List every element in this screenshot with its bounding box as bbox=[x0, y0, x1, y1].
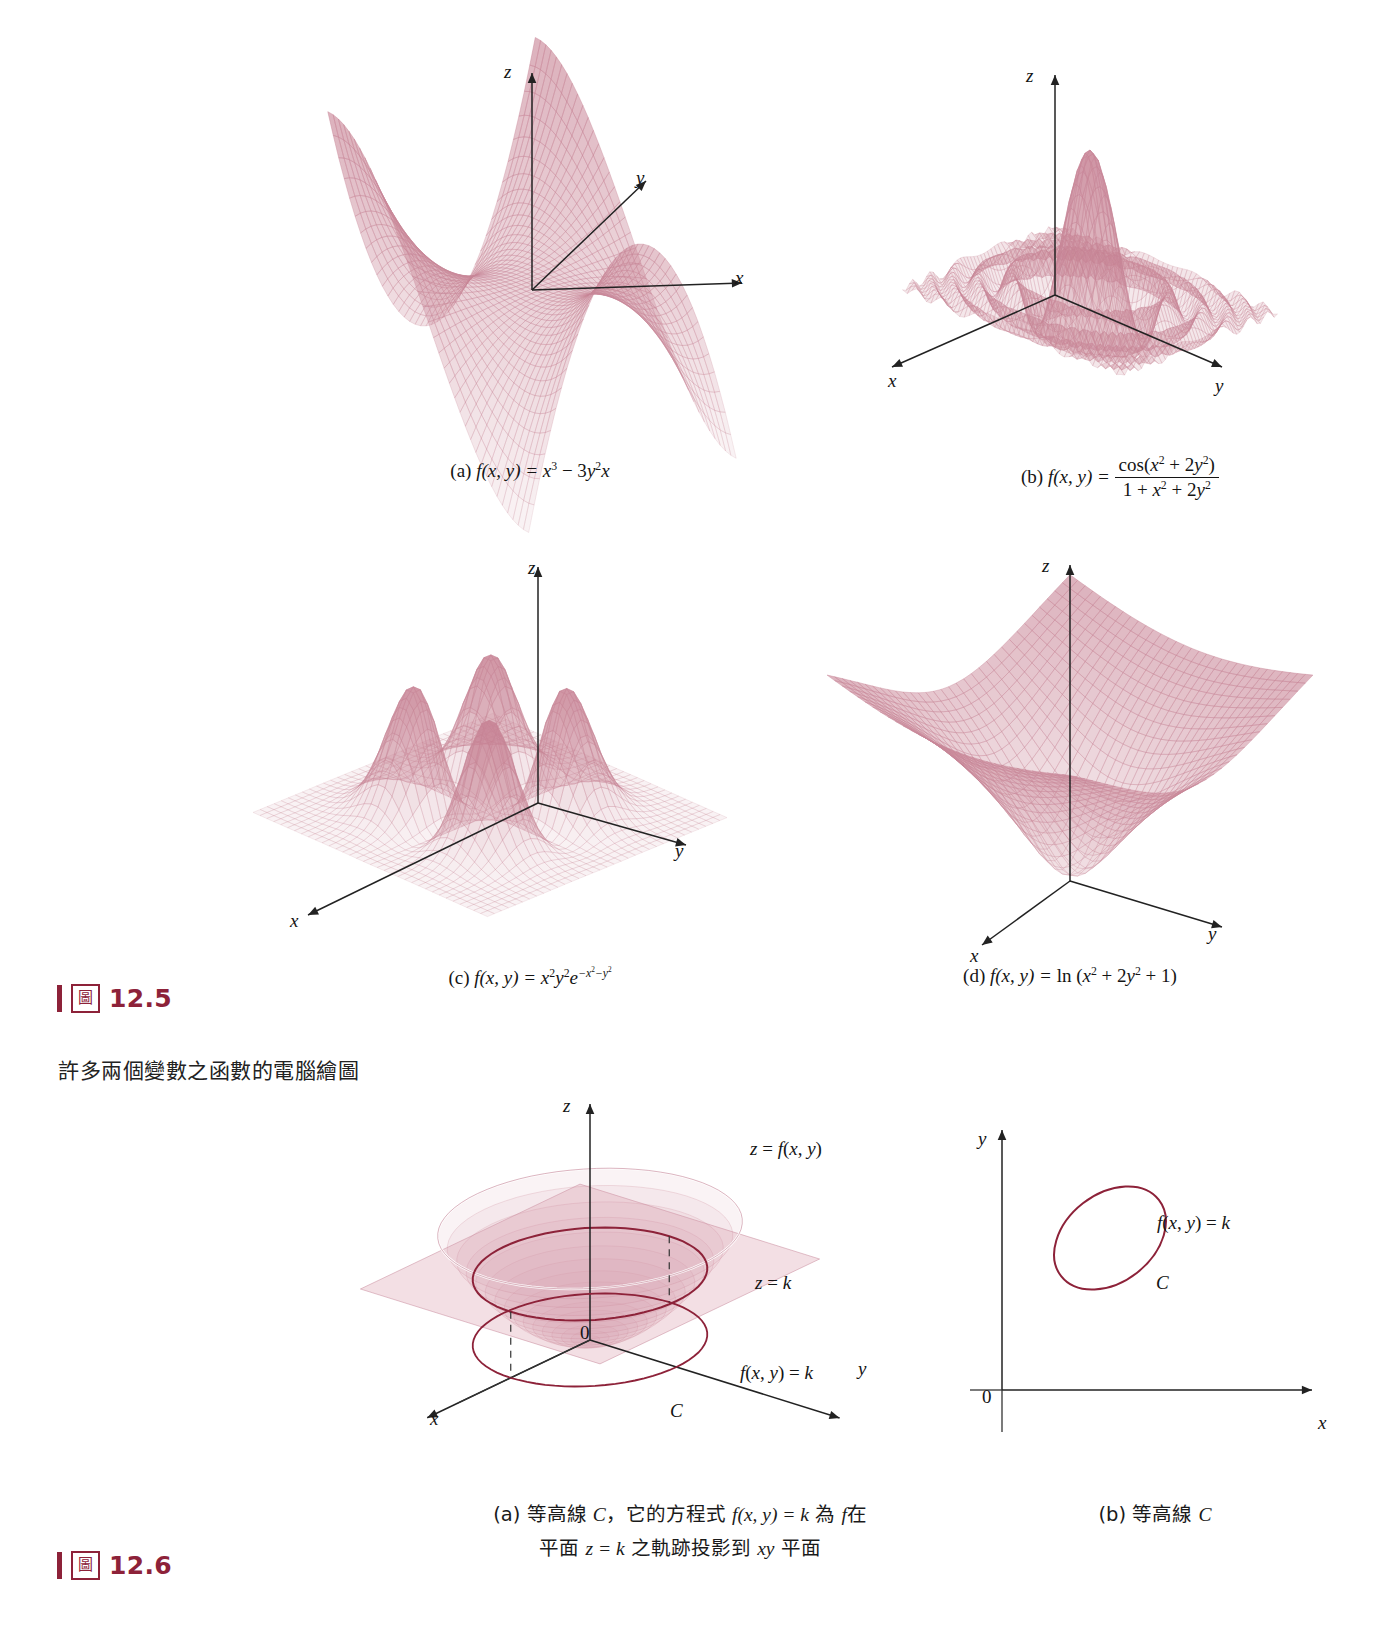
axis-label-z-a: z bbox=[504, 61, 511, 83]
origin-label-f6a: 0 bbox=[580, 1322, 590, 1344]
surface-plot-b: z x y bbox=[840, 55, 1340, 450]
axis-label-x-c: x bbox=[290, 910, 298, 932]
figure-tag-bar bbox=[57, 985, 62, 1012]
cap-a-l1-c: C bbox=[593, 1504, 606, 1525]
cap-a-l2-p3: 平面 bbox=[774, 1537, 820, 1560]
cap-a-l1-p2: ，它的方程式 bbox=[606, 1503, 732, 1526]
axis-label-y-b: y bbox=[1215, 375, 1223, 397]
caption-d-prefix: (d) bbox=[963, 965, 990, 986]
axis-label-x-d: x bbox=[970, 945, 978, 967]
caption-a-prefix: (a) bbox=[450, 460, 476, 481]
cap-a-l2-p2: 之軌跡投影到 bbox=[625, 1537, 757, 1560]
caption-b-prefix: (b) bbox=[1021, 466, 1048, 487]
axis-label-z-c: z bbox=[528, 557, 535, 579]
axis-label-x-b: x bbox=[888, 370, 896, 392]
axis-label-z-f6a: z bbox=[563, 1095, 570, 1117]
surface-plot-c: z y x bbox=[130, 545, 830, 955]
curve-label-f6a: C bbox=[670, 1400, 683, 1422]
figure-tag-glyph-2: 圖 bbox=[71, 1551, 100, 1580]
caption-d: (d) f(x, y) = ln (x2 + 2y2 + 1) bbox=[900, 965, 1240, 987]
axis-label-y-f6b: y bbox=[978, 1128, 986, 1150]
axis-label-y-f6a: y bbox=[858, 1358, 866, 1380]
axis-label-x-f6a: x bbox=[430, 1408, 438, 1430]
caption-b: (b) f(x, y) = cos(x2 + 2y2)1 + x2 + 2y2 bbox=[930, 455, 1310, 502]
surface-c-canvas bbox=[130, 545, 830, 955]
figure-tag-12-5: 圖 12.5 bbox=[57, 984, 172, 1013]
trace-equation-label: f(x, y) = k bbox=[740, 1362, 813, 1384]
surface-a-canvas bbox=[250, 55, 810, 450]
figure-12-6-caption-a-line1: (a) 等高線 C，它的方程式 f(x, y) = k 為 f在 bbox=[400, 1498, 960, 1527]
caption-d-args: (x, y) = bbox=[995, 965, 1056, 986]
figure-tag-number: 12.5 bbox=[109, 984, 172, 1013]
surface-plot-a: z y x bbox=[250, 55, 810, 450]
curve-label-f6b: C bbox=[1156, 1272, 1169, 1294]
axis-label-y-a: y bbox=[636, 167, 644, 189]
surface-b-canvas bbox=[840, 55, 1340, 450]
axis-label-z-d: z bbox=[1042, 555, 1049, 577]
cap-a-l2-xy: xy bbox=[757, 1538, 774, 1559]
cap-a-l1-p1: (a) 等高線 bbox=[493, 1503, 593, 1526]
axis-label-z-b: z bbox=[1026, 65, 1033, 87]
cap-a-l2-p1: 平面 bbox=[539, 1537, 585, 1560]
curve-equation-label-f6b: f(x, y) = k bbox=[1157, 1212, 1230, 1234]
cap-b-p1: (b) 等高線 bbox=[1098, 1503, 1198, 1526]
level-curve-b-canvas bbox=[960, 1090, 1350, 1470]
figure-12-6-caption-a-line2: 平面 z = k 之軌跡投影到 xy 平面 bbox=[400, 1532, 960, 1561]
axis-label-y-c: y bbox=[675, 840, 683, 862]
cap-a-l1-p4: 在 bbox=[847, 1503, 867, 1526]
caption-a-args: (x, y) = bbox=[481, 460, 542, 481]
axis-label-x-f6b: x bbox=[1318, 1412, 1326, 1434]
cap-a-l2-eq: z = k bbox=[586, 1538, 625, 1559]
caption-b-args: (x, y) = bbox=[1053, 466, 1114, 487]
surface-d-canvas bbox=[830, 545, 1310, 955]
figure-tag-number-2: 12.6 bbox=[109, 1551, 172, 1580]
axis-label-y-d: y bbox=[1208, 923, 1216, 945]
caption-b-denominator: 1 + x2 + 2y2 bbox=[1115, 478, 1219, 501]
figure-tag-glyph: 圖 bbox=[71, 984, 100, 1013]
caption-b-numerator: cos(x2 + 2y2) bbox=[1115, 454, 1219, 478]
cap-a-l1-eq: f(x, y) = k bbox=[732, 1504, 809, 1525]
caption-c: (c) f(x, y) = x2y2e−x2−y2 bbox=[370, 965, 690, 989]
caption-c-prefix: (c) bbox=[448, 967, 474, 988]
caption-b-fraction: cos(x2 + 2y2)1 + x2 + 2y2 bbox=[1115, 454, 1219, 501]
caption-a: (a) f(x, y) = x3 − 3y2x bbox=[360, 460, 700, 482]
plane-equation-label: z = k bbox=[755, 1272, 791, 1294]
surface-plot-d: z y x bbox=[830, 545, 1310, 955]
figure-12-6-caption-b: (b) 等高線 C bbox=[960, 1498, 1350, 1527]
level-curve-diagram-a: z y x 0 z = f(x, y) z = k f(x, y) = k C bbox=[400, 1090, 960, 1470]
axis-label-x-a: x bbox=[735, 267, 743, 289]
cap-a-l1-p3: 為 bbox=[809, 1503, 841, 1526]
cap-b-c: C bbox=[1198, 1504, 1211, 1525]
level-curve-diagram-b: y x 0 f(x, y) = k C bbox=[960, 1090, 1350, 1470]
figure-tag-bar-2 bbox=[57, 1552, 62, 1579]
figure-tag-12-6: 圖 12.6 bbox=[57, 1551, 172, 1580]
origin-label-f6b: 0 bbox=[982, 1386, 992, 1408]
caption-c-args: (x, y) = bbox=[480, 967, 541, 988]
figure-12-5-chinese-caption: 許多兩個變數之函數的電腦繪圖 bbox=[58, 1054, 359, 1084]
surface-equation-label: z = f(x, y) bbox=[750, 1138, 822, 1160]
